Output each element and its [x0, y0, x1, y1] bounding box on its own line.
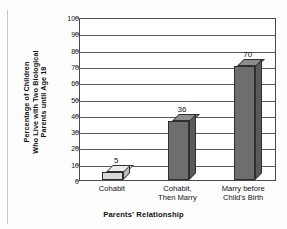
x-axis-title: Parents' Relationship [0, 210, 287, 219]
x-axis-category-label: Cohabit,Then Marry [158, 184, 197, 202]
y-axis-title: Percentage of Children Who Live with Two… [24, 14, 48, 189]
bar-front-face [102, 172, 123, 180]
y-axis-title-line-3: Parents until Age 18 [40, 50, 49, 153]
bar-value-label: 70 [243, 51, 252, 59]
bar-value-label: 5 [114, 157, 118, 165]
x-axis-label-line: Cohabit [99, 184, 125, 193]
bar-front-face [234, 66, 255, 180]
gridline [80, 35, 275, 36]
bar-value-label: 36 [178, 106, 187, 114]
x-axis-category-label: Cohabit [99, 184, 125, 193]
page-edge-line [7, 10, 8, 224]
bar-side-face [255, 59, 262, 180]
plot-area: 53670 [79, 18, 276, 181]
bar-side-face [189, 114, 196, 180]
x-axis-label-line: Marry before [222, 184, 265, 193]
bar [234, 66, 255, 180]
x-axis-label-line: Child's Birth [222, 193, 265, 202]
x-axis-category-labels: CohabitCohabit,Then MarryMarry beforeChi… [79, 184, 276, 208]
x-axis-category-label: Marry beforeChild's Birth [222, 184, 265, 202]
bar [168, 121, 189, 180]
bar [102, 172, 123, 180]
chart-page: Percentage of Children Who Live with Two… [0, 0, 287, 229]
bar-front-face [168, 121, 189, 180]
x-axis-label-line: Cohabit, [158, 184, 197, 193]
x-axis-label-line: Then Marry [158, 193, 197, 202]
